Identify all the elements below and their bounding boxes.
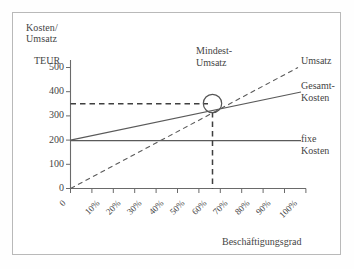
break-even-chart-figure: Kosten/ Umsatz TEUR 500 400 300 200 100 … [0,0,354,269]
y-axis-title: Kosten/ Umsatz [26,22,58,44]
y-axis-title-line1: Kosten/ [26,22,58,33]
break-even-annotation: Mindest- Umsatz [196,45,232,68]
legend-label-fixe-kosten-line2: Kosten [301,145,329,157]
y-tick-label-500: 500 [34,61,64,72]
legend-label-umsatz-text: Umsatz [301,55,332,67]
legend-label-fixe-kosten: fixe Kosten [301,133,329,156]
y-tick-label-100: 100 [34,158,64,169]
series-line-umsatz [71,68,299,189]
legend-label-umsatz: Umsatz [301,55,332,67]
x-axis-ticks [71,189,306,194]
y-tick-label-0: 0 [34,182,64,193]
legend-label-fixe-kosten-line1: fixe [301,133,329,145]
x-axis-title: Beschäftigungsgrad [222,236,301,247]
break-even-annotation-line2: Umsatz [196,57,232,69]
break-even-annotation-line1: Mindest- [196,45,232,57]
y-tick-label-200: 200 [34,134,64,145]
y-axis-ticks [66,68,71,189]
series-line-gesamt-kosten [71,92,302,140]
y-tick-label-300: 300 [34,109,64,120]
y-tick-label-400: 400 [34,85,64,96]
legend-label-gesamt-kosten: Gesamt- Kosten [301,80,335,103]
y-axis-title-line2: Umsatz [26,33,58,44]
legend-label-gesamt-kosten-line2: Kosten [301,92,335,104]
legend-label-gesamt-kosten-line1: Gesamt- [301,80,335,92]
